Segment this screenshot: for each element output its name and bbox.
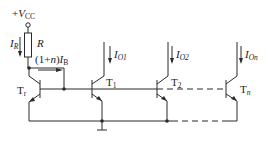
current-mirror-diagram: +VCC R IR (1+n)IB Tr: [0, 0, 268, 142]
transistor-t1: T1 IO1: [92, 42, 127, 121]
transistor-tr: Tr: [17, 68, 40, 121]
node-base: [62, 87, 66, 91]
svg-text:+VCC: +VCC: [12, 7, 35, 21]
transistor-t2: T2 IO2: [157, 42, 189, 121]
svg-text:Tr: Tr: [17, 84, 27, 98]
svg-text:IOn: IOn: [244, 48, 258, 62]
svg-text:Tn: Tn: [240, 83, 251, 97]
base-current-label: (1+n)IB: [35, 53, 68, 72]
svg-text:T2: T2: [171, 76, 182, 90]
node-emitter-2: [165, 119, 169, 123]
svg-text:IR: IR: [9, 37, 19, 51]
vcc-terminal: +VCC: [12, 7, 35, 27]
transistor-tn: Tn IOn: [226, 42, 258, 121]
ground-icon: [97, 121, 107, 130]
svg-text:T1: T1: [106, 76, 117, 90]
ir-arrow: IR: [9, 37, 22, 57]
svg-text:IO1: IO1: [113, 48, 127, 62]
svg-text:(1+n)IB: (1+n)IB: [35, 53, 68, 67]
svg-text:IO2: IO2: [175, 48, 189, 62]
resistor-label: R: [36, 37, 44, 49]
